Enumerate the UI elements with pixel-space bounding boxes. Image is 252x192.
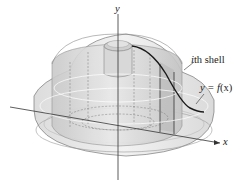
shell-method-diagram <box>0 0 252 192</box>
curve-label: y = f(x) <box>200 83 232 94</box>
ith-shell-label: ith shell <box>191 55 225 66</box>
y-axis-label: y <box>115 4 120 15</box>
x-axis-label: x <box>223 137 228 148</box>
